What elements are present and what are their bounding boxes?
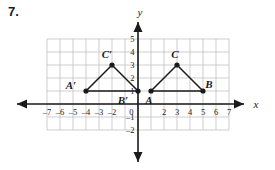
vertex-point bbox=[109, 62, 114, 67]
x-tick-label: 6 bbox=[214, 107, 218, 117]
x-tick-label: –2 bbox=[107, 107, 117, 117]
x-axis-arrow-left bbox=[17, 100, 27, 109]
x-tick-label: 2 bbox=[162, 107, 166, 117]
figure-container: 7. –7–6–5–4–3–2234567543210–1–2 ABCA′B′C… bbox=[0, 0, 275, 170]
x-tick-label: 5 bbox=[201, 107, 205, 117]
y-tick-label: –2 bbox=[125, 125, 135, 135]
x-tick-label: –3 bbox=[94, 107, 104, 117]
x-tick-label: –4 bbox=[81, 107, 91, 117]
vertex-point bbox=[83, 88, 88, 93]
point-label: A bbox=[144, 94, 152, 106]
point-label: B′ bbox=[117, 94, 128, 106]
x-tick-label: –6 bbox=[55, 107, 65, 117]
vertex-point bbox=[148, 88, 153, 93]
vertex-point bbox=[135, 88, 140, 93]
x-tick-label: –5 bbox=[68, 107, 78, 117]
y-tick-label: 3 bbox=[130, 60, 134, 70]
y-axis-arrow-up bbox=[134, 22, 143, 32]
vertex-point bbox=[174, 62, 179, 67]
x-axis-arrow-right bbox=[234, 100, 244, 109]
x-axis-label: x bbox=[253, 98, 259, 110]
y-axis-label: y bbox=[137, 6, 143, 18]
point-label: A′ bbox=[65, 79, 76, 91]
point-label: C′ bbox=[102, 48, 112, 60]
point-label: B bbox=[204, 78, 212, 90]
y-tick-label: 5 bbox=[130, 34, 134, 44]
x-tick-label: 7 bbox=[227, 107, 231, 117]
x-tick-label: 3 bbox=[175, 107, 179, 117]
y-tick-label: 1 bbox=[130, 86, 134, 96]
coordinate-plane: –7–6–5–4–3–2234567543210–1–2 ABCA′B′C′ x… bbox=[0, 0, 275, 170]
x-tick-label: 4 bbox=[188, 107, 193, 117]
point-label: C bbox=[171, 48, 179, 60]
axis-labels: xy bbox=[137, 6, 259, 110]
x-tick-label: –7 bbox=[42, 107, 52, 117]
y-tick-label: 2 bbox=[130, 73, 134, 83]
y-tick-label: –1 bbox=[125, 112, 135, 122]
y-axis-arrow-down bbox=[134, 152, 143, 162]
